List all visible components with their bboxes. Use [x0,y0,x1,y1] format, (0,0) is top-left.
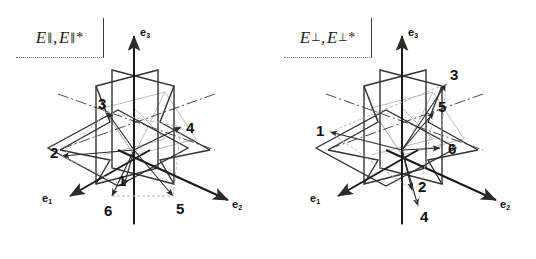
vector-label-6: 6 [448,140,456,157]
axis-label-e3: e3 [408,26,418,39]
axis-label-e2: e2 [232,198,242,211]
label-subscript: ⊥ [311,31,321,44]
panel-e-perpendicular: E⊥,E⊥* e3 e1 e2 1 2 3 4 5 6 [268,0,536,259]
axis-sub: 3 [414,32,418,39]
numbered-vectors [330,84,446,206]
vector-label-3: 3 [450,66,458,83]
construction-lines [330,84,446,206]
label-symbol-2: E [327,28,338,48]
label-comma: , [321,28,325,48]
panel-e-parallel: E∥,E∥* e3 e1 e2 1 2 3 4 5 6 [0,0,268,259]
dash-dot-axes [326,62,483,228]
vector-1 [330,132,402,150]
vector-label-1: 1 [316,122,324,139]
figure-two-panel-crystal-axes: E∥,E∥* e3 e1 e2 1 2 3 4 5 6 [0,0,536,259]
dash-dot-axes [58,62,215,228]
vector-label-2: 2 [418,178,426,195]
axis-sub: 1 [48,198,52,205]
label-symbol: E [300,28,311,48]
axis-label-e3: e3 [140,26,150,39]
axis-label-e1: e1 [42,192,52,205]
axis-sub: 1 [316,198,320,205]
axis-label-e1: e1 [310,192,320,205]
axis-sub: 2 [238,204,242,211]
vector-label-4: 4 [420,208,428,225]
label-subscript-2: ⊥ [338,31,348,44]
label-star: * [76,30,83,46]
vector-label-4: 4 [186,119,194,136]
label-comma: , [53,28,57,48]
axis-label-e2: e2 [500,198,510,211]
principal-axes [338,36,496,224]
label-box-e-perpendicular: E⊥,E⊥* [284,18,372,58]
label-symbol: E [36,28,47,48]
vector-label-5: 5 [176,200,184,217]
vector-label-1: 1 [118,172,126,189]
axis-sub: 3 [146,32,150,39]
vector-label-5: 5 [438,98,446,115]
label-box-e-parallel: E∥,E∥* [16,18,104,58]
label-symbol-2: E [59,28,70,48]
vector-4 [402,150,418,206]
label-star: * [348,30,355,46]
axis-sub: 2 [506,204,510,211]
vector-label-2: 2 [50,144,58,161]
vector-label-6: 6 [104,202,112,219]
vector-label-3: 3 [98,95,106,112]
